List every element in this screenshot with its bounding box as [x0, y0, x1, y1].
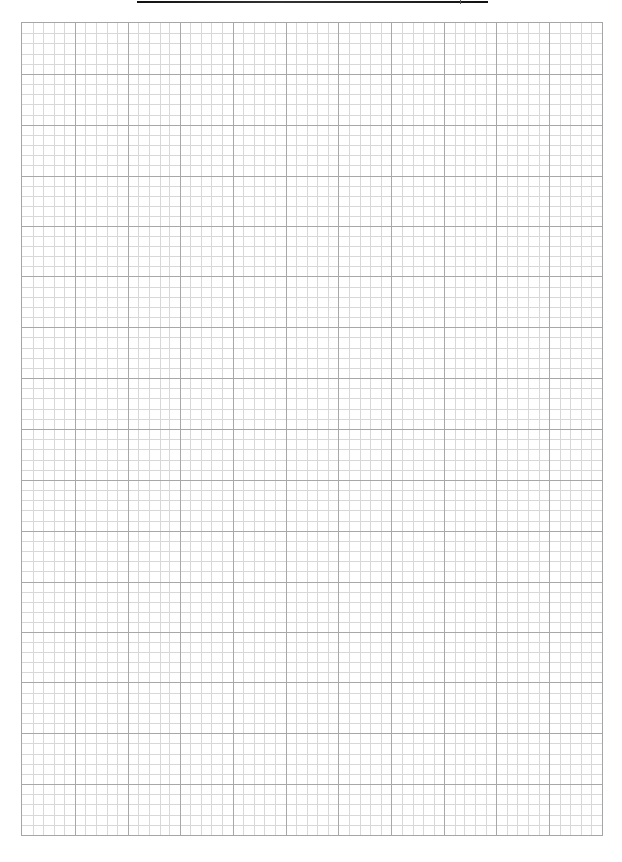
title-underline — [137, 1, 488, 3]
graph-paper-grid — [21, 22, 603, 836]
grid-lines — [22, 23, 602, 835]
title-underline-tick — [460, 0, 461, 4]
